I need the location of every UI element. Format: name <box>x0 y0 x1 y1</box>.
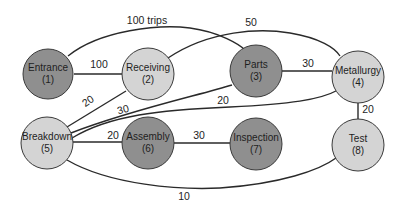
node-assembly: Assembly (6) <box>122 117 174 169</box>
node-test: Test (8) <box>332 119 384 171</box>
edge-label-metallurgy-test: 20 <box>362 103 374 115</box>
node-entrance: Entrance (1) <box>23 49 73 99</box>
edge-label-receiving-breakdown: 20 <box>79 92 96 109</box>
node-number: (2) <box>142 74 154 85</box>
node-label: Inspection <box>233 132 279 143</box>
node-metallurgy: Metallurgy (4) <box>332 51 384 103</box>
node-number: (6) <box>142 143 154 154</box>
node-number: (5) <box>41 143 53 154</box>
edge-label-receiving-metallurgy: 50 <box>245 16 257 28</box>
node-number: (4) <box>352 77 364 88</box>
node-parts: Parts (3) <box>230 45 282 97</box>
edge-label-breakdown-assembly: 20 <box>107 129 119 141</box>
edge-label-entrance-receiving: 100 <box>90 58 108 70</box>
node-breakdown: Breakdown (5) <box>21 117 73 169</box>
node-label: Assembly <box>126 131 169 142</box>
node-label: Test <box>349 133 368 144</box>
edge-label-breakdown-metallurgy: 20 <box>217 94 229 106</box>
node-receiving: Receiving (2) <box>122 48 174 100</box>
node-number: (3) <box>250 71 262 82</box>
edge-label-assembly-inspection: 30 <box>193 129 205 141</box>
node-label: Entrance <box>28 62 68 73</box>
node-label: Breakdown <box>22 131 72 142</box>
node-number: (8) <box>352 145 364 156</box>
edge-breakdown-test <box>67 158 336 188</box>
node-label: Metallurgy <box>335 65 381 76</box>
edge-labels: 100 100 trips 50 30 20 30 20 20 20 30 10 <box>79 14 374 202</box>
node-number: (1) <box>42 74 54 85</box>
node-label: Receiving <box>126 62 170 73</box>
edge-label-breakdown-test: 10 <box>178 190 190 202</box>
flow-diagram: 100 100 trips 50 30 20 30 20 20 20 30 10… <box>0 0 403 210</box>
node-inspection: Inspection (7) <box>230 118 282 170</box>
edge-label-entrance-parts: 100 trips <box>127 14 167 26</box>
edge-label-parts-metallurgy: 30 <box>302 57 314 69</box>
node-label: Parts <box>244 59 267 70</box>
edges <box>67 27 358 189</box>
node-number: (7) <box>250 144 262 155</box>
